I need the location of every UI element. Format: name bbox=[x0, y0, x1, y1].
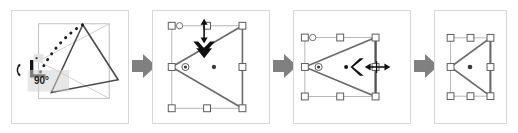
handle-bottom-center[interactable] bbox=[337, 93, 344, 100]
angle-readout: 90° bbox=[31, 74, 52, 87]
center-point-icon bbox=[212, 65, 216, 69]
panel-resize-horizontal bbox=[293, 10, 411, 124]
horizontal-resize-cursor-icon bbox=[365, 61, 391, 73]
panel-resize-vertical bbox=[152, 10, 270, 124]
handle-top-right[interactable] bbox=[487, 34, 494, 41]
handle-top-center[interactable] bbox=[467, 34, 474, 41]
panel-rotate: 90° bbox=[11, 10, 129, 124]
handle-middle-left[interactable] bbox=[447, 64, 454, 71]
selection-handles[interactable] bbox=[168, 22, 246, 111]
handle-top-right[interactable] bbox=[372, 34, 379, 41]
down-arrow-cursor-icon bbox=[193, 41, 215, 58]
handle-bottom-center[interactable] bbox=[204, 105, 211, 112]
anchor-point-icon bbox=[182, 63, 189, 70]
handle-middle-right[interactable] bbox=[239, 64, 246, 71]
handle-top-left[interactable] bbox=[301, 34, 308, 41]
handle-middle-right[interactable] bbox=[487, 64, 494, 71]
anchor-point-icon bbox=[315, 63, 322, 70]
rotate-cursor-icon bbox=[17, 64, 20, 77]
left-arrow-cursor-icon bbox=[344, 58, 364, 76]
handle-bottom-right[interactable] bbox=[372, 93, 379, 100]
center-point-icon bbox=[468, 65, 473, 70]
panel-resize-vertical-canvas bbox=[153, 11, 269, 123]
figure-stage: 90° bbox=[0, 0, 518, 133]
panel-result-canvas bbox=[435, 11, 506, 123]
rotation-handle-icon[interactable] bbox=[176, 23, 182, 29]
handle-bottom-right[interactable] bbox=[487, 93, 494, 100]
panel-rotate-canvas bbox=[12, 11, 128, 123]
handle-top-left[interactable] bbox=[168, 22, 175, 29]
rotation-handle-icon[interactable] bbox=[310, 34, 316, 40]
handle-top-right[interactable] bbox=[239, 22, 246, 29]
handle-middle-left[interactable] bbox=[301, 64, 308, 71]
handle-top-left[interactable] bbox=[447, 34, 454, 41]
handle-bottom-left[interactable] bbox=[447, 93, 454, 100]
handle-middle-left[interactable] bbox=[168, 64, 175, 71]
panel-resize-horizontal-canvas bbox=[294, 11, 410, 123]
handle-bottom-left[interactable] bbox=[301, 93, 308, 100]
panel-result bbox=[434, 10, 507, 124]
dotted-rotation-path-icon bbox=[41, 25, 83, 72]
handle-bottom-center[interactable] bbox=[467, 93, 474, 100]
handle-bottom-right[interactable] bbox=[239, 105, 246, 112]
handle-bottom-left[interactable] bbox=[168, 105, 175, 112]
handle-top-center[interactable] bbox=[337, 34, 344, 41]
